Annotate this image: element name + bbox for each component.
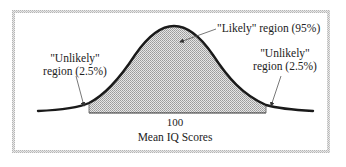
likely-region-label: "Likely" region (95%) [217, 22, 320, 35]
unlikely-left-arrow [76, 76, 84, 106]
diagram-container: "Likely" region (95%) "Unlikely" region … [0, 0, 346, 167]
x-axis-label: Mean IQ Scores [138, 131, 213, 143]
unlikely-left-label-line2: region (2.5%) [43, 65, 107, 78]
unlikely-right-label-line2: region (2.5%) [253, 60, 317, 73]
mean-tick-label: 100 [167, 116, 184, 128]
unlikely-right-arrow [271, 76, 281, 106]
unlikely-left-label-line1: "Unlikely" [50, 52, 100, 65]
normal-curve-diagram: "Likely" region (95%) "Unlikely" region … [0, 0, 346, 167]
unlikely-right-label-line1: "Unlikely" [260, 47, 310, 60]
likely-region-shading [89, 26, 266, 113]
